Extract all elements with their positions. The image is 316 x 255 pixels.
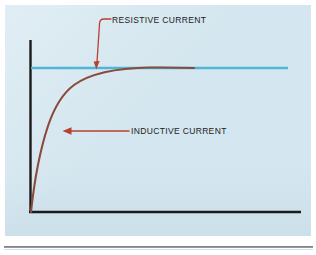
resistive-current-label: RESISTIVE CURRENT [112,15,206,25]
bottom-divider-rule [4,246,313,248]
figure-root: RESISTIVE CURRENT INDUCTIVE CURRENT [0,0,316,255]
inductive-current-curve [31,67,194,212]
bottom-divider-shadow [4,249,313,250]
inductive-annotation-arrowhead [63,127,72,134]
inductive-current-label: INDUCTIVE CURRENT [131,126,227,136]
resistive-annotation-leader [97,19,111,62]
